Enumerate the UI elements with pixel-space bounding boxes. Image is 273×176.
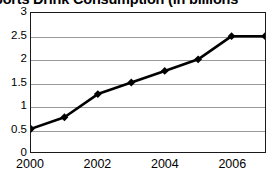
x-axis-tick-label: 2000 <box>8 157 52 171</box>
data-point-marker <box>127 79 135 87</box>
y-axis-tick-label: 3 <box>1 6 27 18</box>
line-chart: ports Drink Consumption (in billions 00.… <box>0 0 273 176</box>
chart-title: ports Drink Consumption (in billions <box>0 0 273 7</box>
y-axis-tick-label: 2.5 <box>1 30 27 42</box>
x-axis-tick-label: 2004 <box>143 157 187 171</box>
y-axis-tick-label: 2 <box>1 53 27 65</box>
y-axis-tick-label: 1.5 <box>1 77 27 89</box>
series-line <box>31 36 265 129</box>
y-axis-labels: 00.511.522.53 <box>0 12 27 153</box>
data-series <box>31 13 265 152</box>
data-point-marker <box>30 125 35 133</box>
data-point-marker <box>261 32 266 40</box>
x-axis-labels: 2000200220042006 <box>30 157 266 173</box>
y-axis-tick-label: 0.5 <box>1 124 27 136</box>
plot-area <box>30 12 266 153</box>
x-axis-tick-label: 2002 <box>75 157 119 171</box>
x-axis-tick-label: 2006 <box>210 157 254 171</box>
data-point-marker <box>161 67 169 75</box>
y-axis-tick-label: 1 <box>1 100 27 112</box>
